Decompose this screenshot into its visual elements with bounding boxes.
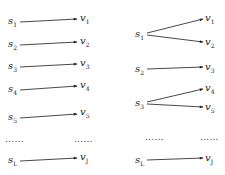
arrow-s3-to-v4 xyxy=(147,89,203,102)
arrow-s1-to-v1 xyxy=(147,19,203,33)
source-node-s2: s2 xyxy=(135,63,144,76)
arrow-s5-to-v5 xyxy=(20,114,77,118)
arrow-s2-to-v3 xyxy=(147,67,203,69)
source-node-s1: s1 xyxy=(8,15,17,28)
source-node-s5: s5 xyxy=(8,111,17,124)
source-node-sL: sL xyxy=(8,154,17,167)
source-node-s3: s3 xyxy=(8,60,17,73)
arrow-s4-to-v4 xyxy=(20,86,77,90)
source-node-s2: s2 xyxy=(8,38,17,51)
node-subscript: 2 xyxy=(211,42,215,49)
node-subscript: 3 xyxy=(211,67,215,74)
target-node-v1: v1 xyxy=(80,12,89,25)
node-subscript: 5 xyxy=(13,117,17,124)
arrow-sL-to-vJ xyxy=(20,158,77,161)
arrow-s1-to-v1 xyxy=(20,19,77,22)
node-subscript: J xyxy=(85,157,89,165)
node-subscript: 3 xyxy=(13,66,17,73)
node-subscript: L xyxy=(140,160,144,167)
node-subscript: 1 xyxy=(13,21,17,28)
target-node-v5: v5 xyxy=(205,101,215,114)
node-subscript: 5 xyxy=(86,112,90,119)
node-subscript: 4 xyxy=(86,85,90,92)
source-node-s3: s3 xyxy=(135,97,144,110)
mapping-diagram: s1s2s3s4s5sLv1v2v3v4v5vJ………… s1s2s3sLv1v… xyxy=(0,0,225,175)
node-subscript: 1 xyxy=(86,18,90,25)
ellipsis-dots: …… xyxy=(200,132,219,142)
arrow-s3-to-v3 xyxy=(20,64,77,67)
node-subscript: L xyxy=(13,160,17,167)
target-node-v2: v2 xyxy=(205,36,215,49)
target-node-vJ: vJ xyxy=(80,151,89,165)
node-subscript: J xyxy=(210,158,214,166)
arrow-s3-to-v5 xyxy=(147,104,203,107)
node-subscript: 3 xyxy=(140,103,144,110)
target-node-v3: v3 xyxy=(205,61,215,74)
ellipsis-dots: …… xyxy=(74,134,93,144)
source-node-s4: s4 xyxy=(8,83,17,96)
target-node-v2: v2 xyxy=(80,35,90,48)
ellipsis-dots: …… xyxy=(145,132,164,142)
target-node-v4: v4 xyxy=(80,79,90,92)
target-node-v1: v1 xyxy=(205,12,214,25)
node-subscript: 1 xyxy=(211,18,215,25)
left-one-to-one-diagram: s1s2s3s4s5sLv1v2v3v4v5vJ………… xyxy=(5,12,93,167)
node-subscript: 4 xyxy=(13,89,17,96)
source-node-sL: sL xyxy=(135,154,144,167)
source-node-s1: s1 xyxy=(135,28,144,41)
arrow-sL-to-vJ xyxy=(147,158,203,160)
target-node-v4: v4 xyxy=(205,82,215,95)
ellipsis-dots: …… xyxy=(5,134,24,144)
node-subscript: 5 xyxy=(211,107,215,114)
arrow-s2-to-v2 xyxy=(20,42,77,45)
node-subscript: 2 xyxy=(13,44,17,51)
target-node-v3: v3 xyxy=(80,57,90,70)
target-node-v5: v5 xyxy=(80,106,90,119)
node-subscript: 2 xyxy=(140,69,144,76)
arrow-s1-to-v2 xyxy=(147,35,203,42)
node-subscript: 2 xyxy=(86,41,90,48)
right-one-to-many-diagram: s1s2s3sLv1v2v3v4v5vJ………… xyxy=(135,12,219,167)
node-subscript: 3 xyxy=(86,63,90,70)
node-subscript: 1 xyxy=(140,34,144,41)
node-subscript: 4 xyxy=(211,88,215,95)
target-node-vJ: vJ xyxy=(205,152,214,166)
